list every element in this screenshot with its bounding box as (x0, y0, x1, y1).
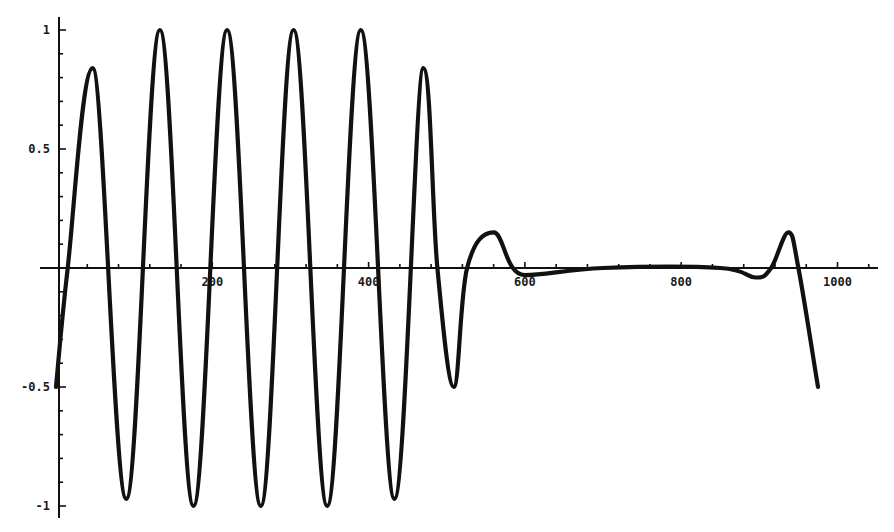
x-tick-label: 200 (201, 275, 223, 289)
y-tick-label: 0.5 (28, 142, 50, 156)
y-tick-label: -0.5 (21, 380, 50, 394)
y-tick-label: -1 (36, 499, 50, 513)
x-tick-label: 800 (670, 275, 692, 289)
line-chart: -1-0.50.51 2004006008001000 (0, 0, 894, 532)
y-tick-label: 1 (43, 23, 50, 37)
x-tick-label: 1000 (823, 275, 852, 289)
x-tick-label: 400 (358, 275, 380, 289)
